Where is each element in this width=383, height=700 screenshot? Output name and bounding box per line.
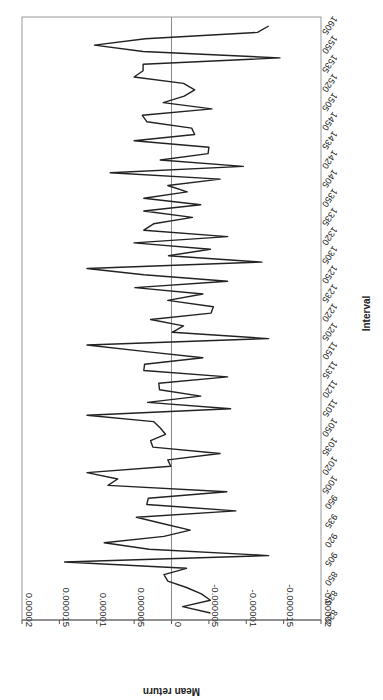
interval-tick-label: 1505: [320, 91, 340, 113]
interval-tick-label: 1535: [320, 53, 340, 75]
interval-tick-label: 1035: [320, 436, 340, 458]
interval-tick-label: 1205: [320, 321, 340, 343]
interval-tick-label: 1420: [320, 148, 340, 170]
interval-tick-label: 1550: [320, 34, 340, 56]
value-axis-tick-label: 0.00001: [98, 593, 109, 627]
value-axis-tick-label: 0: [173, 622, 184, 627]
interval-tick-label: 1235: [320, 282, 340, 304]
interval-tick-label: 1220: [320, 302, 340, 324]
mean-return-line: [65, 26, 280, 613]
interval-tick-label: 1250: [320, 263, 340, 285]
interval-tick-label: 1320: [320, 225, 340, 247]
interval-tick-label: 1350: [320, 187, 340, 209]
interval-tick-label: 1120: [320, 378, 339, 400]
interval-axis-title: Interval: [361, 295, 372, 331]
interval-tick-label: 920: [323, 531, 340, 549]
value-axis-tick-label: -0.000005: [210, 584, 221, 627]
interval-tick-label: 850: [323, 570, 340, 588]
interval-tick-label: 1105: [320, 397, 339, 419]
interval-tick-label: 935: [323, 512, 340, 530]
value-axis-tick-label: -0.00001: [248, 589, 259, 627]
line-chart: 0.000020.0000150.000010.0000050-0.000005…: [0, 0, 383, 700]
interval-tick-label: 1520: [320, 72, 340, 94]
value-axis-tick-label: 0.00002: [24, 593, 35, 627]
interval-tick-label: 1450: [320, 110, 340, 132]
value-axis-tick-label: 0.000005: [136, 587, 147, 627]
interval-tick-label: 1150: [320, 340, 339, 362]
interval-tick-label: 1005: [320, 474, 340, 496]
interval-tick-label: 1335: [320, 206, 340, 228]
value-axis-tick-label: -0.000015: [285, 584, 296, 627]
interval-tick-label: 1435: [320, 129, 340, 151]
value-axis-tick-label: 0.000015: [61, 587, 72, 627]
interval-tick-label: 1020: [320, 455, 340, 477]
value-axis-title: Mean return: [143, 686, 200, 697]
interval-tick-label: 1605: [320, 14, 340, 36]
interval-tick-label: 950: [323, 493, 340, 511]
interval-tick-label: 905: [323, 550, 340, 568]
interval-tick-label: 1050: [320, 416, 340, 438]
interval-tick-label: 1405: [320, 168, 340, 190]
plot-area: 0.000020.0000150.000010.0000050-0.000005…: [22, 14, 372, 697]
chart-canvas: 0.000020.0000150.000010.0000050-0.000005…: [0, 0, 383, 700]
interval-tick-label: 1305: [320, 244, 340, 266]
interval-tick-label: 1135: [320, 359, 339, 381]
